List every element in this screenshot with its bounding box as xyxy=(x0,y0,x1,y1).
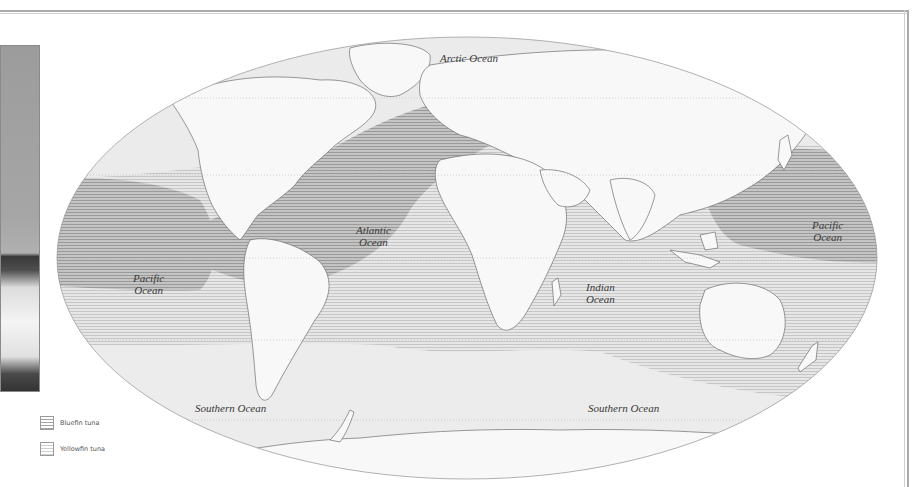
label-atlantic-ocean: Atlantic Ocean xyxy=(356,224,391,248)
bluefin-hatch-swatch-icon xyxy=(40,416,54,430)
label-pacific-ocean-east: Pacific Ocean xyxy=(812,219,843,243)
label-southern-ocean-east: Southern Ocean xyxy=(588,402,659,414)
label-arctic-ocean: Arctic Ocean xyxy=(440,52,498,64)
label-text: Arctic Ocean xyxy=(440,52,498,64)
legend-item-yellowfin: Yellowfin tuna xyxy=(40,441,105,457)
label-text: Atlantic xyxy=(356,224,391,236)
label-text: Ocean xyxy=(356,236,391,248)
label-text: Pacific xyxy=(133,272,164,284)
label-southern-ocean-west: Southern Ocean xyxy=(195,402,266,414)
bluefin-range-pacific-west xyxy=(40,178,215,290)
label-text: Ocean xyxy=(812,231,843,243)
label-pacific-ocean-west: Pacific Ocean xyxy=(133,272,164,296)
map-legend: Bluefin tuna Yellowfin tuna xyxy=(40,415,105,467)
label-text: Southern Ocean xyxy=(588,402,659,414)
yellowfin-hatch-swatch-icon xyxy=(40,442,54,456)
label-text: Ocean xyxy=(586,293,615,305)
label-text: Pacific xyxy=(812,219,843,231)
label-text: Ocean xyxy=(133,284,164,296)
label-indian-ocean: Indian Ocean xyxy=(586,281,615,305)
legend-item-bluefin: Bluefin tuna xyxy=(40,415,105,431)
world-map: Arctic Ocean Atlantic Ocean Pacific Ocea… xyxy=(0,0,919,487)
legend-label: Bluefin tuna xyxy=(60,419,99,427)
tuna-distribution-map xyxy=(0,0,919,487)
label-text: Indian xyxy=(586,281,615,293)
label-text: Southern Ocean xyxy=(195,402,266,414)
legend-label: Yellowfin tuna xyxy=(60,445,105,453)
